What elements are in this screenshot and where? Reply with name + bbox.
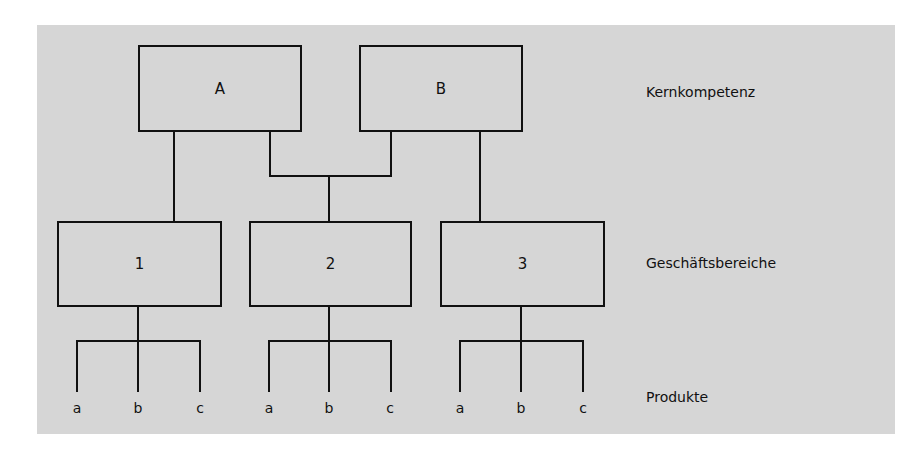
business-node-3: 3 [440, 221, 605, 307]
tree-bar [76, 340, 201, 342]
tree-stem [328, 306, 330, 392]
product-label: a [450, 400, 470, 416]
edge-b-3 [479, 131, 481, 222]
product-label: b [511, 400, 531, 416]
tree-leg [199, 340, 201, 392]
business-node-label: 3 [518, 255, 528, 273]
tree-stem [137, 306, 139, 392]
product-label: b [128, 400, 148, 416]
edge-a-join [269, 131, 271, 177]
tree-bar [459, 340, 584, 342]
core-node-b: B [359, 45, 523, 132]
tree-leg [76, 340, 78, 392]
level-label-products: Produkte [646, 389, 708, 405]
level-label-core: Kernkompetenz [646, 84, 755, 100]
core-node-label: A [215, 80, 225, 98]
edge-join-horizontal [269, 175, 392, 177]
tree-leg [582, 340, 584, 392]
core-node-a: A [138, 45, 302, 132]
product-label: b [319, 400, 339, 416]
tree-bar [268, 340, 392, 342]
edge-b-join [390, 131, 392, 177]
edge-join-2 [328, 175, 330, 222]
tree-leg [459, 340, 461, 392]
business-node-label: 2 [326, 255, 336, 273]
tree-stem [520, 306, 522, 392]
business-node-1: 1 [57, 221, 222, 307]
product-label: c [573, 400, 593, 416]
product-label: a [67, 400, 87, 416]
business-node-label: 1 [135, 255, 145, 273]
product-label: c [380, 400, 400, 416]
level-label-business: Geschäftsbereiche [646, 255, 776, 271]
product-label: c [190, 400, 210, 416]
edge-a-1 [173, 131, 175, 222]
business-node-2: 2 [249, 221, 412, 307]
tree-leg [390, 340, 392, 392]
product-label: a [259, 400, 279, 416]
core-node-label: B [436, 80, 446, 98]
tree-leg [268, 340, 270, 392]
